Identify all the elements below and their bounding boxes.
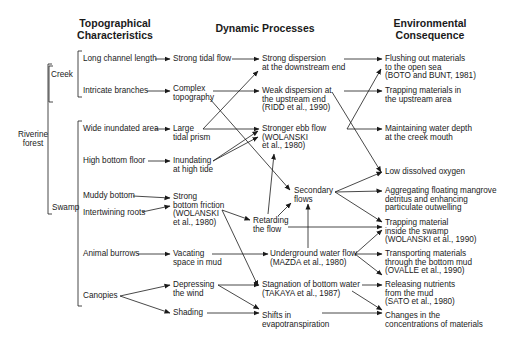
connector-arrows — [0, 0, 509, 342]
flow-diagram: Topographical Characteristics Dynamic Pr… — [0, 0, 509, 342]
